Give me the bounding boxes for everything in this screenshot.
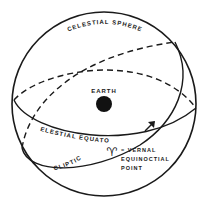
celestial-sphere-diagram: EARTH CELESTIAL SPHERE CELESTIAL EQUATOR… [0,0,207,210]
vernal-label-line1: = VERNAL [121,147,156,153]
celestial-sphere-label: CELESTIAL SPHERE [66,19,143,33]
earth-icon [96,96,112,112]
aries-symbol-icon: ♈ [107,145,118,159]
earth-label: EARTH [91,88,117,94]
vernal-label-line3: POINT [121,165,143,171]
vernal-label-line2: EQUINOCTIAL [121,156,170,162]
